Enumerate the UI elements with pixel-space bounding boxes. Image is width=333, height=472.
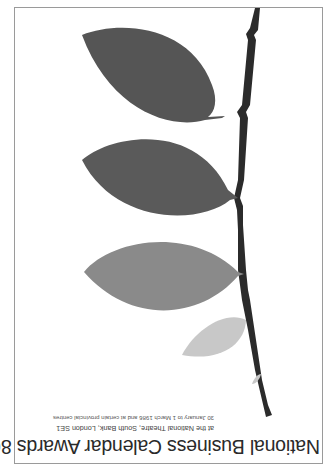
branch-illustration — [0, 0, 333, 472]
second-leaf — [82, 139, 238, 215]
poster-title: National Business Calendar Awards 86 — [0, 435, 320, 458]
stem — [234, 8, 272, 417]
poster-dates: 30 January to 1 March 1986 and at certai… — [53, 415, 214, 421]
poster-venue: at the National Theatre, South Bank, Lon… — [56, 424, 214, 433]
poster-text: National Business Calendar Awards 86 at … — [24, 405, 324, 460]
top-leaf — [82, 28, 225, 123]
third-leaf — [84, 242, 244, 310]
small-leaf — [182, 317, 246, 356]
